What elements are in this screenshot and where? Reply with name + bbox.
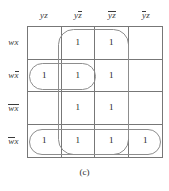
kmap-cell-r4c4: 1 <box>129 125 163 158</box>
column-header-yz: yz <box>27 6 61 25</box>
column-header-row: yz yz yz yz <box>27 6 163 25</box>
kmap-grid: 1 1 1 1 1 1 1 1 1 1 1 <box>27 26 163 158</box>
row-label-wx: wx <box>0 26 27 59</box>
kmap-cell-r3c2: 1 <box>62 92 96 125</box>
kmap-cell-r1c1 <box>28 27 62 60</box>
column-header-ybar-zbar: yz <box>95 6 129 25</box>
kmap-cell-r4c2: 1 <box>62 125 96 158</box>
row-label-column: wx wx wx wx <box>0 26 27 158</box>
column-header-ybar-z: yz <box>129 6 163 25</box>
kmap-cell-r1c3: 1 <box>95 27 129 60</box>
figure-caption: (c) <box>0 168 169 177</box>
row-label-w-xbar: wx <box>0 59 27 92</box>
kmap-cell-r2c1: 1 <box>28 60 62 93</box>
kmap-cell-r1c2: 1 <box>62 27 96 60</box>
kmap-cell-r4c1: 1 <box>28 125 62 158</box>
kmap-cell-r2c2: 1 <box>62 60 96 93</box>
kmap-cell-r2c4 <box>129 60 163 93</box>
kmap-cell-r3c3: 1 <box>95 92 129 125</box>
column-header-y-zbar: yz <box>61 6 95 25</box>
kmap-cell-r1c4 <box>129 27 163 60</box>
karnaugh-map-figure: yz yz yz yz wx wx wx wx 1 1 1 1 1 1 1 1 … <box>0 0 169 191</box>
row-label-wbar-x: wx <box>0 125 27 158</box>
kmap-cell-r2c3: 1 <box>95 60 129 93</box>
row-label-wbar-xbar: wx <box>0 92 27 125</box>
kmap-cell-r4c3: 1 <box>95 125 129 158</box>
kmap-cell-r3c1 <box>28 92 62 125</box>
kmap-cell-r3c4 <box>129 92 163 125</box>
